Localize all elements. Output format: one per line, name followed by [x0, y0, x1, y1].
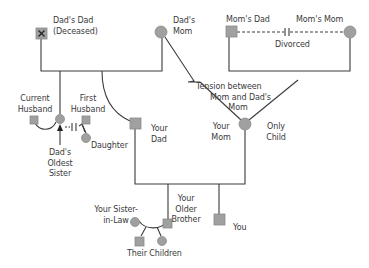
tension-zigzag-line [165, 37, 200, 82]
daughter-circle[interactable] [82, 134, 91, 143]
child-daughter-circle[interactable] [158, 237, 167, 246]
sister-label-line2: Oldest [44, 159, 76, 170]
current-husband-label: Current Husband [17, 94, 53, 115]
their-children-label: Their Children [127, 249, 182, 260]
dads-mom-label-line1: Dad's [173, 16, 195, 27]
older-brother-label-line1: Your [171, 194, 201, 205]
your-dad-label-line2: Dad [151, 135, 168, 146]
brother-marriage-arc [139, 221, 166, 228]
dads-dad-label-line1: Dad's Dad [53, 16, 98, 27]
only-child-label-line1: Only [264, 122, 288, 133]
first-husband-label: First Husband [70, 94, 106, 115]
your-mom-label: Your Mom [209, 122, 233, 143]
sister-label-line1: Dad's [44, 148, 76, 159]
sister-in-law-label-line1: Your Sister- [93, 205, 139, 216]
you-label: You [233, 223, 247, 234]
tension-label-line1: Tension between [196, 82, 266, 93]
tension-label: Tension between Mom and Dad's Mom [196, 82, 266, 114]
your-dad-label: Your Dad [151, 124, 168, 145]
tension-label-line3: Mom [196, 103, 266, 114]
older-brother-label-line3: Brother [171, 215, 201, 226]
your-mom-label-line1: Your [209, 122, 233, 133]
your-dad-label-line1: Your [151, 124, 168, 135]
moms-mom-label: Mom's Mom [296, 15, 343, 26]
daughter-label: Daughter [91, 141, 128, 152]
tension-label-line2: Mom and Dad's [196, 93, 266, 104]
sister-in-law-label-line2: in-Law [93, 216, 139, 227]
your-mom-circle[interactable] [239, 118, 251, 130]
dads-oldest-sister-label: Dad's Oldest Sister [44, 148, 76, 180]
first-husband-label-line2: Husband [70, 105, 106, 116]
moms-dad-square[interactable] [226, 26, 237, 37]
dads-mom-label: Dad's Mom [173, 16, 195, 37]
your-mom-label-line2: Mom [209, 133, 233, 144]
sister-in-law-label: Your Sister- in-Law [93, 205, 139, 226]
dads-dad-label: Dad's Dad (Deceased) [53, 16, 98, 37]
only-child-label: Only Child [264, 122, 288, 143]
older-brother-label: Your Older Brother [171, 194, 201, 226]
dads-mom-label-line2: Mom [173, 27, 195, 38]
current-husband-square[interactable] [30, 116, 38, 124]
current-husband-label-line1: Current [17, 94, 53, 105]
child-son-square[interactable] [135, 237, 144, 246]
older-brother-label-line2: Older [171, 205, 201, 216]
dads-oldest-sister-circle[interactable] [56, 115, 65, 124]
dads-dad-label-line2: (Deceased) [53, 27, 98, 38]
moms-dad-label: Mom's Dad [226, 15, 270, 26]
genogram-diagram [0, 0, 369, 268]
pointer-arrow-icon [57, 124, 63, 131]
current-husband-label-line2: Husband [17, 105, 53, 116]
dads-parents-marriage-line [41, 38, 162, 71]
only-child-label-line2: Child [264, 133, 288, 144]
divorced-label: Divorced [275, 40, 310, 51]
your-dad-square[interactable] [130, 118, 141, 129]
dad-descent-line [102, 71, 130, 121]
first-husband-square[interactable] [82, 116, 90, 124]
dads-mom-circle[interactable] [155, 26, 167, 38]
moms-mom-circle[interactable] [344, 26, 356, 38]
child-line-1 [141, 227, 146, 236]
daughter-line [82, 124, 85, 132]
you-square[interactable] [214, 214, 225, 225]
first-husband-label-line1: First [70, 94, 106, 105]
child-line-2 [157, 227, 161, 236]
sister-label-line3: Sister [44, 169, 76, 180]
